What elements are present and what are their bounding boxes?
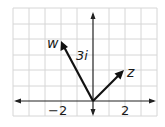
y-axis-down-arrow-icon [91,109,96,116]
vector-z-label: z [126,64,135,80]
x-axis-left-arrow-icon [14,99,21,104]
tick-label-neg-2: −2 [48,103,67,118]
complex-plane-diagram: w z 3i −2 2 [0,0,165,127]
x-axis-right-arrow-icon [149,99,156,104]
annotation-3i: 3i [76,48,88,63]
vector-w-label: w [47,35,59,51]
y-axis-up-arrow-icon [91,12,96,19]
tick-label-2: 2 [121,103,129,118]
